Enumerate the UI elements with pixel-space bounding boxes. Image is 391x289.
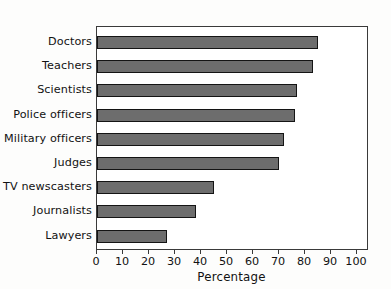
category-label-military-officers: Military officers xyxy=(4,132,92,145)
bar-chart: DoctorsTeachersScientistsPolice officers… xyxy=(0,0,391,289)
category-label-scientists: Scientists xyxy=(37,83,92,96)
x-tick-label-10: 10 xyxy=(115,255,129,268)
x-tick-mark xyxy=(200,250,201,254)
x-axis-title-text: Percentage xyxy=(197,270,265,284)
bar-teachers xyxy=(97,60,313,73)
category-label-teachers: Teachers xyxy=(42,59,92,72)
bar-lawyers xyxy=(97,230,167,243)
x-tick-label-0: 0 xyxy=(92,255,99,268)
bar-tv-newscasters xyxy=(97,181,214,194)
x-tick-label-40: 40 xyxy=(193,255,207,268)
x-tick-mark xyxy=(174,250,175,254)
bar-military-officers xyxy=(97,133,284,146)
x-tick-mark xyxy=(330,250,331,254)
x-tick-label-90: 90 xyxy=(323,255,337,268)
x-tick-label-50: 50 xyxy=(219,255,233,268)
x-tick-label-60: 60 xyxy=(245,255,259,268)
category-label-police-officers: Police officers xyxy=(13,108,92,121)
x-tick-mark xyxy=(226,250,227,254)
category-label-journalists: Journalists xyxy=(33,204,92,217)
x-tick-mark xyxy=(122,250,123,254)
plot-area xyxy=(96,26,368,250)
x-tick-label-70: 70 xyxy=(271,255,285,268)
x-tick-mark xyxy=(356,250,357,254)
x-tick-label-30: 30 xyxy=(167,255,181,268)
x-tick-mark xyxy=(148,250,149,254)
x-tick-mark xyxy=(304,250,305,254)
bar-police-officers xyxy=(97,109,295,122)
x-tick-mark xyxy=(278,250,279,254)
category-label-doctors: Doctors xyxy=(48,35,92,48)
x-tick-label-100: 100 xyxy=(345,255,366,268)
bar-doctors xyxy=(97,36,318,49)
x-tick-label-20: 20 xyxy=(141,255,155,268)
x-tick-mark xyxy=(252,250,253,254)
category-label-judges: Judges xyxy=(54,156,92,169)
bar-journalists xyxy=(97,205,196,218)
category-label-tv-newscasters: TV newscasters xyxy=(3,180,92,193)
bar-scientists xyxy=(97,84,297,97)
x-tick-mark xyxy=(96,250,97,254)
x-tick-label-80: 80 xyxy=(297,255,311,268)
x-axis-title: Percentage xyxy=(0,270,391,284)
bar-judges xyxy=(97,157,279,170)
category-label-lawyers: Lawyers xyxy=(45,229,92,242)
